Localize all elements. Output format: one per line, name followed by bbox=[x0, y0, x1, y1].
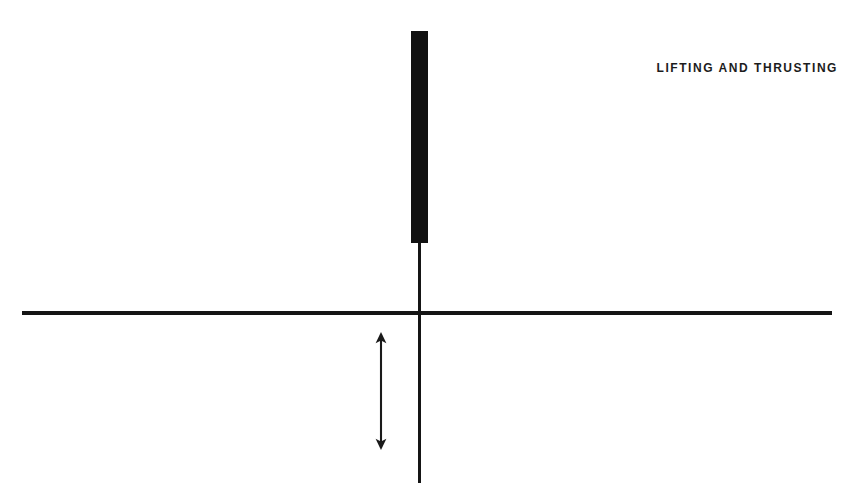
double-headed-arrow-icon bbox=[368, 330, 394, 452]
section-title: LIFTING AND THRUSTING bbox=[657, 61, 838, 75]
thin-vertical-line bbox=[418, 243, 421, 483]
figure-canvas: g g LIFTING AND THRUSTING bbox=[0, 0, 854, 493]
thick-vertical-bar bbox=[411, 31, 428, 243]
horizontal-baseline bbox=[22, 311, 832, 315]
